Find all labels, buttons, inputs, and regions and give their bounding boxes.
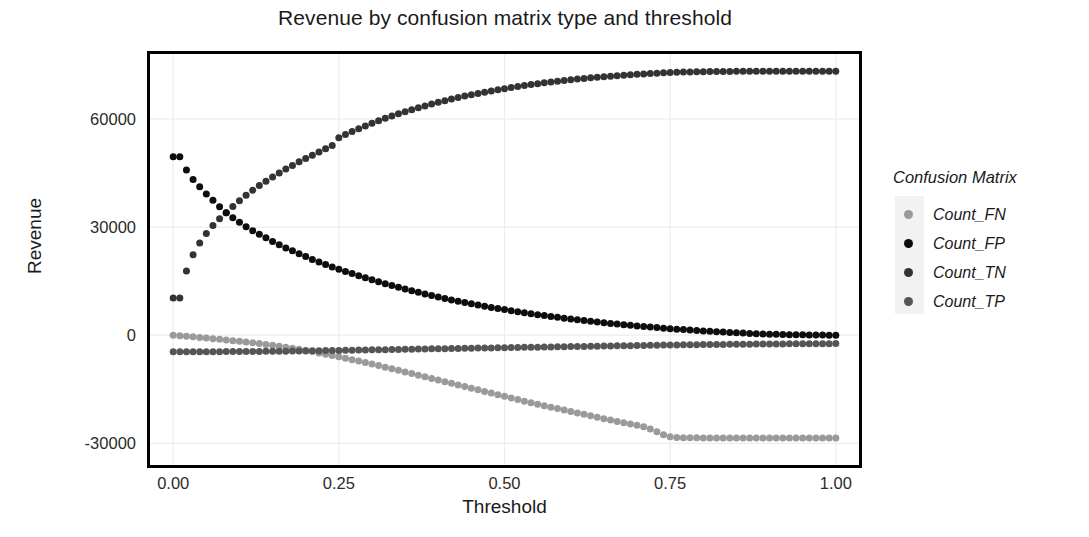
data-point	[421, 373, 428, 380]
data-point	[209, 335, 216, 342]
data-point	[766, 341, 773, 348]
data-point	[349, 356, 356, 363]
data-point	[362, 359, 369, 366]
data-point	[587, 318, 594, 325]
data-point	[693, 327, 700, 334]
data-point	[534, 311, 541, 318]
data-point	[382, 115, 389, 122]
data-point	[269, 173, 276, 180]
data-point	[687, 68, 694, 75]
data-point	[183, 348, 190, 355]
data-point	[793, 331, 800, 338]
data-point	[607, 73, 614, 80]
data-point	[402, 368, 409, 375]
data-point	[706, 68, 713, 75]
data-point	[349, 270, 356, 277]
data-point	[567, 408, 574, 415]
data-point	[581, 317, 588, 324]
data-point	[746, 434, 753, 441]
data-point	[388, 113, 395, 120]
data-point	[309, 347, 316, 354]
data-point	[243, 192, 250, 199]
data-point	[415, 372, 422, 379]
data-point	[468, 91, 475, 98]
data-point	[832, 434, 839, 441]
data-point	[428, 101, 435, 108]
data-point	[706, 328, 713, 335]
data-point	[249, 339, 256, 346]
data-point	[673, 69, 680, 76]
legend-item[interactable]: Count_FP	[893, 229, 1083, 258]
data-point	[508, 84, 515, 91]
data-point	[614, 418, 621, 425]
data-point	[196, 183, 203, 190]
data-point	[627, 322, 634, 329]
data-point	[388, 282, 395, 289]
data-point	[196, 239, 203, 246]
data-point	[236, 219, 243, 226]
data-point	[700, 327, 707, 334]
data-point	[693, 434, 700, 441]
data-point	[574, 343, 581, 350]
legend-dot-icon	[904, 297, 913, 306]
data-point	[415, 289, 422, 296]
data-point	[806, 331, 813, 338]
data-point	[561, 343, 568, 350]
data-point	[435, 99, 442, 106]
data-point	[640, 423, 647, 430]
data-point	[335, 347, 342, 354]
data-point	[547, 404, 554, 411]
legend-item-label: Count_TP	[933, 293, 1005, 311]
data-point	[368, 276, 375, 283]
data-point	[461, 383, 468, 390]
data-point	[269, 238, 276, 245]
data-point	[740, 341, 747, 348]
data-point	[587, 412, 594, 419]
data-point	[216, 348, 223, 355]
legend-item[interactable]: Count_TP	[893, 287, 1083, 316]
data-point	[488, 304, 495, 311]
data-point	[475, 90, 482, 97]
data-point	[448, 296, 455, 303]
data-point	[355, 125, 362, 132]
data-point	[329, 142, 336, 149]
data-point	[746, 68, 753, 75]
data-point	[779, 331, 786, 338]
data-point	[289, 247, 296, 254]
legend-item[interactable]: Count_TN	[893, 258, 1083, 287]
data-point	[706, 434, 713, 441]
legend-title: Confusion Matrix	[893, 168, 1083, 187]
data-point	[786, 68, 793, 75]
data-point	[567, 343, 574, 350]
data-point	[335, 266, 342, 273]
data-point	[488, 87, 495, 94]
data-point	[660, 342, 667, 349]
data-point	[799, 331, 806, 338]
data-point	[726, 68, 733, 75]
data-point	[382, 280, 389, 287]
data-point	[746, 330, 753, 337]
data-point	[541, 344, 548, 351]
data-point	[812, 332, 819, 339]
data-point	[786, 340, 793, 347]
data-point	[647, 342, 654, 349]
data-point	[528, 399, 535, 406]
data-point	[475, 302, 482, 309]
data-point	[441, 345, 448, 352]
data-point	[620, 419, 627, 426]
data-point	[190, 176, 197, 183]
data-point	[713, 434, 720, 441]
data-point	[766, 68, 773, 75]
chart-title: Revenue by confusion matrix type and thr…	[147, 6, 863, 30]
data-point	[832, 340, 839, 347]
data-point	[713, 328, 720, 335]
data-point	[700, 341, 707, 348]
data-point	[488, 344, 495, 351]
data-point	[209, 348, 216, 355]
legend-item[interactable]: Count_FN	[893, 200, 1083, 229]
data-point	[620, 72, 627, 79]
data-point	[269, 342, 276, 349]
data-point	[693, 68, 700, 75]
data-point	[349, 347, 356, 354]
data-point	[759, 68, 766, 75]
